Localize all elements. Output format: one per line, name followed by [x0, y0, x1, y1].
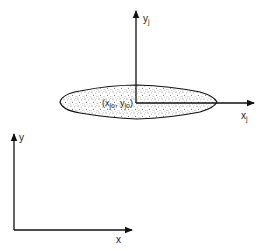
local-x-label: xj: [241, 110, 248, 123]
local-y-label: yj: [143, 13, 150, 26]
lens-body: [60, 85, 217, 119]
global-y-label: y: [19, 132, 24, 143]
diagram-canvas: yj xj (xjo, yjo) y x: [0, 0, 259, 251]
global-x-label: x: [116, 234, 121, 245]
